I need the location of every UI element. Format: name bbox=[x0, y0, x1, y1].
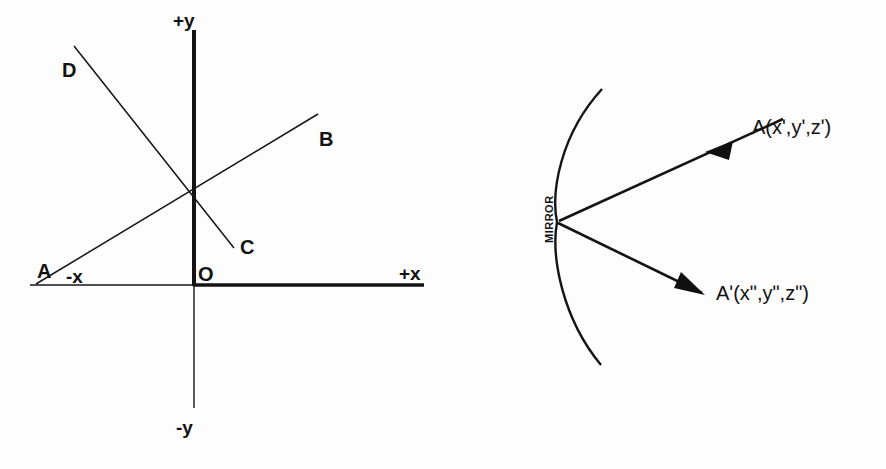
label-positive-x: +x bbox=[399, 263, 421, 284]
label-point-b: B bbox=[319, 128, 333, 150]
line-dc bbox=[74, 46, 234, 248]
label-positive-y: +y bbox=[173, 10, 195, 31]
figure-root: +y -y +x -x O A B C D MIRROR bbox=[0, 0, 886, 469]
mirror-reflection-panel: MIRROR A(xʹ,yʹ,zʹ) Aʹ(xʺ,yʺ,zʺ) bbox=[543, 89, 831, 365]
label-origin: O bbox=[198, 263, 214, 285]
incident-ray-label: A(xʹ,yʹ,zʹ) bbox=[752, 116, 831, 138]
label-point-d: D bbox=[62, 59, 76, 81]
label-point-c: C bbox=[240, 236, 254, 258]
label-negative-y: -y bbox=[176, 417, 193, 438]
figure-canvas: +y -y +x -x O A B C D MIRROR bbox=[0, 0, 886, 469]
label-point-a: A bbox=[37, 260, 51, 282]
incident-ray-arrowhead bbox=[705, 141, 733, 160]
reflected-ray-arrowhead bbox=[674, 272, 705, 295]
reflected-ray-label: Aʹ(xʺ,yʺ,zʺ) bbox=[716, 282, 809, 304]
label-negative-x: -x bbox=[66, 266, 83, 287]
mirror-arc bbox=[555, 89, 602, 365]
mirror-label: MIRROR bbox=[543, 195, 555, 243]
line-ab bbox=[36, 114, 318, 284]
coordinate-axes-panel: +y -y +x -x O A B C D bbox=[30, 10, 424, 438]
incident-ray-line bbox=[559, 119, 783, 221]
